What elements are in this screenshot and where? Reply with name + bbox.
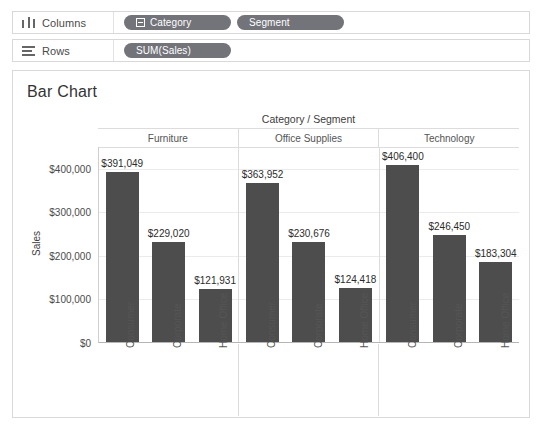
x-axis-slot: Consumer: [379, 344, 426, 416]
columns-shelf-label-cell: Columns: [13, 12, 114, 33]
rows-shelf-pills: SUM(Sales): [114, 43, 231, 58]
y-axis-tick-1: $100,000: [49, 294, 91, 305]
bar-value-label: $391,049: [101, 158, 143, 169]
y-axis-title: Sales: [31, 231, 42, 256]
x-axis-tick-label: Corporate: [313, 304, 324, 348]
x-axis-tick-label: Consumer: [266, 302, 277, 348]
rows-shelf[interactable]: Rows SUM(Sales): [12, 39, 530, 62]
rows-shelf-label: Rows: [42, 45, 70, 57]
bar-slot: $124,418: [332, 147, 378, 342]
panel-header-label: Furniture: [148, 133, 188, 144]
x-axis: ConsumerCorporateHome OfficeConsumerCorp…: [98, 344, 519, 416]
y-axis-tick-2: $200,000: [49, 250, 91, 261]
rows-icon: [22, 46, 35, 56]
bar-value-label: $363,952: [242, 169, 284, 180]
bar-value-label: $124,418: [335, 274, 377, 285]
y-axis: $0$100,000$200,000$300,000$400,000: [43, 147, 95, 343]
columns-icon: [22, 17, 35, 28]
bar-slot: $246,450: [426, 147, 472, 342]
bar-slot: $406,400: [380, 147, 426, 342]
panel-2: $406,400$246,450$183,304: [380, 147, 519, 342]
x-axis-tick-label: Home Office: [218, 293, 229, 348]
panel-header-1: Office Supplies: [239, 129, 380, 147]
x-axis-tick-label: Corporate: [172, 304, 183, 348]
pill-sum-sales-label: SUM(Sales): [136, 45, 191, 56]
pill-category[interactable]: Category: [124, 15, 231, 30]
x-axis-slot: Home Office: [191, 344, 238, 416]
expand-icon[interactable]: [136, 18, 145, 27]
bar-value-label: $246,450: [428, 221, 470, 232]
pill-sum-sales[interactable]: SUM(Sales): [124, 43, 231, 58]
bar-value-label: $121,931: [194, 275, 236, 286]
shelf-area: Columns Category Segment Rows SUM(Sales): [12, 11, 530, 67]
pill-segment-label: Segment: [249, 17, 290, 28]
x-axis-slot: Home Office: [332, 344, 379, 416]
bar-slot: $363,952: [239, 147, 285, 342]
x-axis-panel-2: ConsumerCorporateHome Office: [379, 344, 519, 416]
x-axis-tick-label: Corporate: [453, 304, 464, 348]
x-axis-panel-1: ConsumerCorporateHome Office: [239, 344, 380, 416]
y-axis-tick-3: $300,000: [49, 207, 91, 218]
x-axis-slot: Consumer: [98, 344, 145, 416]
x-axis-slot: Home Office: [472, 344, 519, 416]
bar-slot: $229,020: [145, 147, 191, 342]
x-axis-slot: Consumer: [239, 344, 286, 416]
x-axis-tick-label: Consumer: [125, 302, 136, 348]
bar-slot: $230,676: [286, 147, 332, 342]
x-axis-slot: Corporate: [426, 344, 473, 416]
y-axis-tick-4: $400,000: [49, 163, 91, 174]
x-axis-tick-label: Consumer: [407, 302, 418, 348]
y-axis-tick-0: $0: [80, 338, 91, 349]
bar-slot: $391,049: [99, 147, 145, 342]
plot-wrapper: Category / Segment FurnitureOffice Suppl…: [13, 71, 529, 417]
panel-header-label: Office Supplies: [275, 133, 342, 144]
bar-value-label: $406,400: [382, 151, 424, 162]
column-header-title: Category / Segment: [98, 113, 519, 125]
bar-slot: $121,931: [192, 147, 238, 342]
columns-shelf-label: Columns: [42, 17, 86, 29]
panel-header-row: FurnitureOffice SuppliesTechnology: [98, 128, 519, 148]
panel-header-0: Furniture: [98, 129, 239, 147]
x-axis-tick-label: Home Office: [359, 293, 370, 348]
bar-value-label: $183,304: [475, 248, 517, 259]
x-axis-slot: Corporate: [145, 344, 192, 416]
pill-category-label: Category: [150, 17, 191, 28]
bar-value-label: $230,676: [288, 228, 330, 239]
rows-shelf-label-cell: Rows: [13, 40, 114, 61]
panel-header-label: Technology: [424, 133, 475, 144]
pill-segment[interactable]: Segment: [237, 15, 344, 30]
panel-header-2: Technology: [379, 129, 519, 147]
columns-shelf[interactable]: Columns Category Segment: [12, 11, 530, 34]
x-axis-slot: Corporate: [285, 344, 332, 416]
x-axis-tick-label: Home Office: [500, 293, 511, 348]
columns-shelf-pills: Category Segment: [114, 15, 344, 30]
x-axis-panel-0: ConsumerCorporateHome Office: [98, 344, 239, 416]
chart-card: Bar Chart Category / Segment FurnitureOf…: [12, 70, 530, 418]
bar-value-label: $229,020: [148, 228, 190, 239]
bar-slot: $183,304: [473, 147, 519, 342]
